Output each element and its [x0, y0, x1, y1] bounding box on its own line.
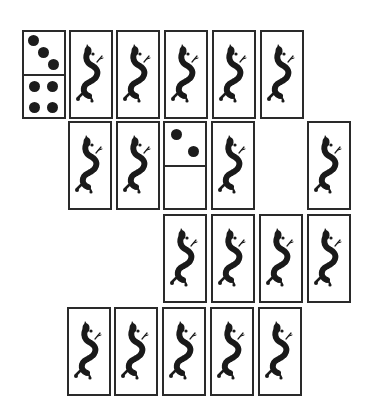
domino-tile-3-4[interactable] — [22, 30, 66, 119]
face-down-tile[interactable] — [259, 214, 303, 303]
face-down-tile[interactable] — [163, 214, 207, 303]
dragon-icon — [71, 32, 111, 117]
game-board — [0, 0, 370, 414]
dragon-icon — [70, 123, 110, 208]
domino-half-top — [165, 123, 205, 167]
domino-tile-2-0[interactable] — [163, 121, 207, 210]
face-down-tile[interactable] — [164, 30, 208, 119]
dragon-icon — [164, 309, 204, 394]
face-down-tile[interactable] — [307, 214, 351, 303]
dragon-icon — [213, 123, 253, 208]
face-down-tile[interactable] — [211, 214, 255, 303]
face-down-tile[interactable] — [67, 307, 111, 396]
face-down-tile[interactable] — [116, 30, 160, 119]
dragon-icon — [116, 309, 156, 394]
face-down-tile[interactable] — [258, 307, 302, 396]
pip-icon — [29, 81, 40, 92]
pip-icon — [48, 59, 59, 70]
pip-icon — [188, 146, 199, 157]
dragon-icon — [213, 216, 253, 301]
pip-icon — [28, 35, 39, 46]
domino-half-bottom — [24, 76, 64, 118]
pip-icon — [38, 47, 49, 58]
domino-half-bottom — [165, 167, 205, 209]
dragon-icon — [260, 309, 300, 394]
face-down-tile[interactable] — [162, 307, 206, 396]
face-down-tile[interactable] — [116, 121, 160, 210]
dragon-icon — [118, 123, 158, 208]
dragon-icon — [309, 123, 349, 208]
dragon-icon — [309, 216, 349, 301]
pip-icon — [47, 81, 58, 92]
face-down-tile[interactable] — [307, 121, 351, 210]
pip-icon — [29, 102, 40, 113]
dragon-icon — [165, 216, 205, 301]
dragon-icon — [261, 216, 301, 301]
domino-half-top — [24, 32, 64, 76]
pip-icon — [171, 129, 182, 140]
face-down-tile[interactable] — [210, 307, 254, 396]
face-down-tile[interactable] — [69, 30, 113, 119]
face-down-tile[interactable] — [211, 121, 255, 210]
dragon-icon — [118, 32, 158, 117]
dragon-icon — [69, 309, 109, 394]
face-down-tile[interactable] — [260, 30, 304, 119]
dragon-icon — [214, 32, 254, 117]
pip-icon — [47, 102, 58, 113]
face-down-tile[interactable] — [68, 121, 112, 210]
face-down-tile[interactable] — [114, 307, 158, 396]
face-down-tile[interactable] — [212, 30, 256, 119]
dragon-icon — [166, 32, 206, 117]
dragon-icon — [212, 309, 252, 394]
dragon-icon — [262, 32, 302, 117]
